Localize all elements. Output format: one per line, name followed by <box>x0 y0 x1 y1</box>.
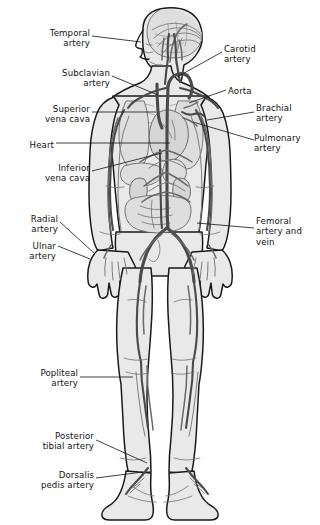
label-posterior-tibial-artery[interactable]: Posterior tibial artery <box>2 431 94 452</box>
label-heart[interactable]: Heart <box>2 140 54 150</box>
label-aorta[interactable]: Aorta <box>228 86 316 96</box>
label-brachial-artery[interactable]: Brachial artery <box>256 103 318 124</box>
circulatory-system-figure: .out{fill:#e9e9e9;stroke:#1a1a1a;stroke-… <box>0 0 320 525</box>
leader-temporal-artery <box>92 36 141 42</box>
label-radial-artery[interactable]: Radial artery <box>2 214 58 235</box>
label-popliteal-artery[interactable]: Popliteal artery <box>2 368 78 389</box>
leader-radial-artery <box>60 222 94 253</box>
label-superior-vena-cava[interactable]: Superior vena cava <box>2 104 90 125</box>
label-carotid-artery[interactable]: Carotid artery <box>224 44 316 65</box>
label-femoral-artery-vein[interactable]: Femoral artery and vein <box>256 216 320 247</box>
label-temporal-artery[interactable]: Temporal artery <box>2 28 90 49</box>
label-subclavian-artery[interactable]: Subclavian artery <box>2 68 110 89</box>
descending-aorta <box>167 86 168 228</box>
label-ulnar-artery[interactable]: Ulnar artery <box>2 241 56 262</box>
leader-ulnar-artery <box>58 246 90 259</box>
label-inferior-vena-cava[interactable]: Inferior vena cava <box>2 163 90 184</box>
label-pulmonary-artery[interactable]: Pulmonary artery <box>254 133 320 154</box>
label-dorsalis-pedis-artery[interactable]: Dorsalis pedis artery <box>2 470 94 491</box>
